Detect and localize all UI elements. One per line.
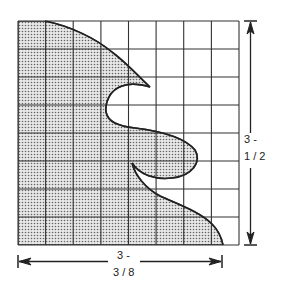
width-label-line2: 3 / 8 <box>113 266 134 278</box>
height-label-line1: 3 - <box>244 133 257 145</box>
width-label-line1: 3 - <box>117 249 130 261</box>
wave-pattern-diagram <box>0 0 283 289</box>
height-label-line2: 1 / 2 <box>244 150 265 162</box>
